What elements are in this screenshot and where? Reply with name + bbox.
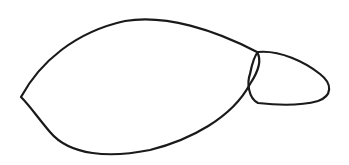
large-body-outline [21, 19, 259, 154]
drawing-canvas [0, 0, 349, 165]
small-lobe-outline [249, 52, 330, 105]
line-drawing [0, 0, 349, 165]
